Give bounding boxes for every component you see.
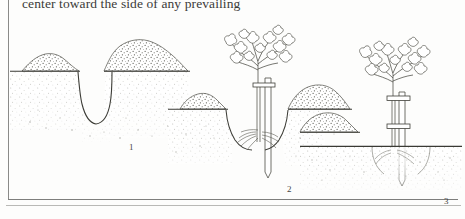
panel-3-foliage [360, 37, 430, 100]
body-text-line: center toward the side of any prevailing [22, 0, 240, 12]
panel-2-number: 2 [287, 184, 292, 194]
panel-1-right-soil-mound [104, 40, 188, 71]
panel-1-group [10, 40, 190, 142]
panel-3-group [300, 37, 462, 191]
panel-3-tree-tie-lower [387, 124, 410, 129]
panel-2-stake [265, 78, 271, 178]
panel-3-number: 3 [444, 196, 449, 206]
planting-diagram-figure: 1 2 3 [0, 14, 465, 200]
panel-2-right-soil-mound [288, 85, 350, 109]
panel-2-trunk [257, 86, 260, 142]
panel-2-subsoil-left [168, 110, 232, 164]
page-frame-bottom-rule-outer [6, 205, 461, 206]
panel-3-tree-tie-upper [387, 96, 410, 101]
scanned-page: center toward the side of any prevailing [0, 0, 465, 219]
panel-1-number: 1 [129, 142, 134, 152]
panel-1-subsoil-left [10, 72, 84, 130]
panel-2-tree-tie [253, 83, 275, 87]
panel-2-foliage [225, 25, 295, 86]
